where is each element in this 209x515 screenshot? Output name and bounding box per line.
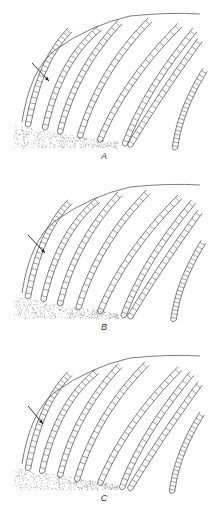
illustration-drawing [0,342,209,513]
stippled-base [14,469,118,491]
figure-panel-b: B [0,171,209,342]
stippled-base [14,126,119,148]
figure-panel-c: C [0,342,209,513]
panel-label-a: A [94,151,114,161]
illustration-drawing [0,171,209,342]
stippled-base [14,297,120,319]
panel-label-b: B [94,322,114,332]
illustration-drawing [0,0,209,171]
panel-label-c: C [94,493,114,503]
figure-panel-a: A [0,0,209,171]
